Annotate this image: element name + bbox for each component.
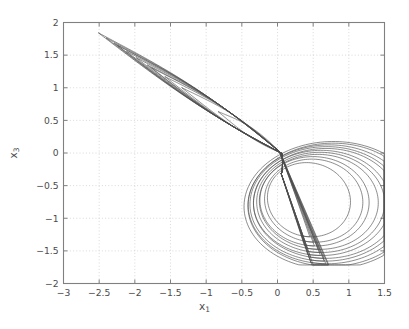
phase-portrait-plot: −3−2.5−2−1.5−1−0.500.511.5−2−1.5−1−0.500… — [0, 0, 409, 329]
svg-text:0: 0 — [53, 147, 59, 158]
svg-text:0: 0 — [275, 287, 281, 298]
svg-text:1.5: 1.5 — [377, 287, 392, 298]
svg-text:1: 1 — [346, 287, 352, 298]
x-axis-label: x1 — [0, 300, 409, 314]
svg-text:−2.5: −2.5 — [88, 287, 110, 298]
svg-text:2: 2 — [53, 17, 59, 28]
svg-text:−0.5: −0.5 — [231, 287, 253, 298]
svg-text:−1: −1 — [45, 213, 59, 224]
svg-text:−1.5: −1.5 — [159, 287, 181, 298]
svg-text:0.5: 0.5 — [44, 115, 59, 126]
svg-text:1.5: 1.5 — [44, 49, 59, 60]
attractor-trajectory — [98, 33, 384, 265]
gridlines — [64, 23, 385, 284]
svg-text:−2: −2 — [45, 278, 59, 289]
y-axis-label-subscript: 3 — [12, 148, 21, 153]
svg-text:−0.5: −0.5 — [36, 180, 58, 191]
svg-text:0.5: 0.5 — [306, 287, 321, 298]
svg-text:−1: −1 — [199, 287, 213, 298]
svg-text:−3: −3 — [57, 287, 71, 298]
chart-figure: −3−2.5−2−1.5−1−0.500.511.5−2−1.5−1−0.500… — [0, 0, 409, 329]
svg-text:−2: −2 — [128, 287, 142, 298]
y-axis-label: x3 — [7, 133, 21, 173]
x-axis-label-subscript: 1 — [205, 305, 210, 314]
y-axis-label-base: x — [7, 152, 19, 158]
svg-text:−1.5: −1.5 — [36, 245, 58, 256]
svg-text:1: 1 — [53, 82, 59, 93]
